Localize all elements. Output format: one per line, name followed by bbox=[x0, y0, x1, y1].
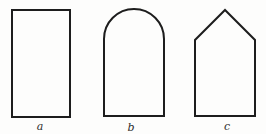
arch-b-shape bbox=[104, 9, 164, 116]
pentagon-c-shape bbox=[195, 10, 255, 116]
shape-label-a: a bbox=[37, 120, 44, 133]
three-shapes-figure: a b c bbox=[0, 0, 266, 134]
shape-label-c: c bbox=[224, 120, 230, 133]
rectangle-a-shape bbox=[12, 10, 70, 117]
shape-label-b: b bbox=[127, 121, 134, 134]
figure-canvas: a b c bbox=[0, 0, 266, 134]
